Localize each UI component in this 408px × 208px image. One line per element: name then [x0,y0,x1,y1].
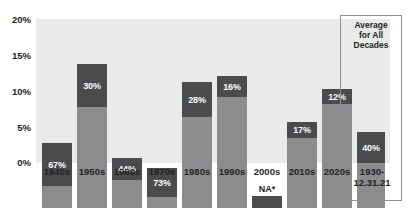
bar-1980s-dark-segment: 28% [182,82,212,117]
average-caption: Average for All Decades [346,20,396,50]
bar-1980s-value-label: 28% [188,95,205,105]
bar-column-1970s: 73% [147,45,177,208]
average-caption-line3: Decades [346,40,396,50]
bar-2000s-dark-segment [252,196,282,208]
average-caption-line1: Average [346,20,396,30]
bar-column-1960s: 44% [112,45,142,208]
bar-1980s: 28% [182,82,212,208]
x-axis-label-1990s: 1990s [212,166,252,177]
x-axis-label-1960s: 1960s [107,166,147,177]
x-axis-label-2000s: 2000s [247,166,287,177]
bar-2000s-value-label: NA* [252,184,282,194]
average-caption-line2: for All [346,30,396,40]
bar-1950s: 30% [77,64,107,208]
y-axis: 20% 15% 10% 5% 0% [0,0,36,208]
y-axis-tick-15: 15% [0,51,31,61]
bar-chart: 20% 15% 10% 5% 0% 67% 30% 44% [0,0,408,208]
x-axis-label-1940s: 1940s [37,166,77,177]
bar-column-2000s: NA* [252,45,282,208]
bar-1970s-value-label: 73% [153,178,170,188]
bar-1990s-dark-segment: 16% [217,76,247,97]
y-axis-tick-10: 10% [0,87,31,97]
x-axis-label-2010s: 2010s [282,166,322,177]
bar-column-1990s: 16% [217,45,247,208]
y-axis-tick-0: 0% [0,158,31,168]
bar-column-1950s: 30% [77,45,107,208]
bar-2000s [252,196,282,208]
bar-2010s-dark-segment: 17% [287,122,317,138]
x-axis-label-average: 1930- 12.31.21 [345,166,399,188]
x-axis-label-average-line1: 1930- [345,166,399,177]
bar-1990s-value-label: 16% [223,82,240,92]
bar-1950s-dark-segment: 30% [77,64,107,107]
bar-1990s: 16% [217,76,247,208]
y-axis-tick-20: 20% [0,15,31,25]
bar-column-2010s: 17% [287,45,317,208]
bar-column-1980s: 28% [182,45,212,208]
y-axis-tick-5: 5% [0,123,31,133]
x-axis-label-average-line2: 12.31.21 [345,177,399,188]
bar-1940s-dark-segment: 67% [42,143,72,186]
bar-2010s-value-label: 17% [293,125,310,135]
x-axis-label-1980s: 1980s [177,166,217,177]
bar-1950s-value-label: 30% [83,81,100,91]
x-axis-label-1970s: 1970s [142,166,182,177]
bar-2010s: 17% [287,122,317,208]
bar-column-1940s: 67% [42,45,72,208]
x-axis-label-1950s: 1950s [72,166,112,177]
